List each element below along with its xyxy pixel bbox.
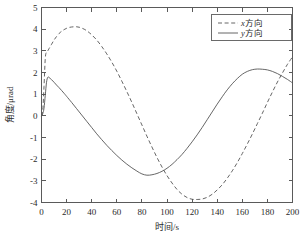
- y-tick-label: -1: [30, 133, 38, 143]
- y-tick-label: 0: [33, 111, 38, 121]
- y-tick-label: 2: [33, 68, 38, 78]
- x-tick-label: 100: [160, 207, 174, 217]
- chart-figure: 020406080100120140160180200 -4-3-2-10123…: [0, 0, 305, 236]
- y-tick-label: 3: [33, 46, 38, 56]
- legend-label-y-direction: y方向: [240, 28, 263, 38]
- x-tick-label: 140: [210, 207, 224, 217]
- x-tick-label: 20: [62, 207, 72, 217]
- legend-label-x-direction: x方向: [240, 18, 263, 28]
- x-tick-label: 80: [137, 207, 147, 217]
- chart-canvas: 020406080100120140160180200 -4-3-2-10123…: [0, 0, 305, 236]
- x-tick-label: 60: [112, 207, 122, 217]
- y-axis-title: 角度/μrad: [4, 86, 15, 123]
- y-tick-label: 5: [33, 3, 38, 13]
- legend-label-x-suffix: 方向: [245, 18, 263, 28]
- x-tick-label: 40: [87, 207, 97, 217]
- y-tick-label: -3: [30, 176, 38, 186]
- x-tick-label: 200: [286, 207, 300, 217]
- y-tick-label: -4: [30, 198, 38, 208]
- legend-label-y-suffix: 方向: [245, 28, 263, 38]
- x-tick-label: 0: [39, 207, 44, 217]
- x-axis-title: 时间/s: [155, 221, 180, 232]
- x-tick-label: 160: [236, 207, 250, 217]
- y-tick-label: 4: [33, 24, 38, 34]
- y-tick-label: -2: [30, 154, 38, 164]
- x-tick-label: 120: [185, 207, 199, 217]
- y-tick-label: 1: [33, 89, 38, 99]
- x-tick-label: 180: [261, 207, 275, 217]
